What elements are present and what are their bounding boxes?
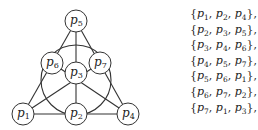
set-line-3: {p3, p4, p6}, xyxy=(190,37,257,53)
set-line-6: {p6, p7, p2}, xyxy=(190,84,257,100)
line-p6-p3-p4 xyxy=(52,63,128,114)
set-line-5: {p5, p6, p1}, xyxy=(190,68,257,84)
node-p6: p6 xyxy=(41,52,63,74)
node-p2: p2 xyxy=(65,103,87,125)
node-p5: p5 xyxy=(65,10,87,32)
set-line-1: {p1, p2, p4}, xyxy=(190,6,257,22)
line-p7-p3-p1 xyxy=(23,63,100,114)
fano-plane-diagram: p1p2p3p4p5p6p7 xyxy=(0,0,150,130)
set-line-4: {p4, p5, p7}, xyxy=(190,53,257,69)
line-set-list: {p1, p2, p4},{p2, p3, p5},{p3, p4, p6},{… xyxy=(190,6,257,115)
diagram-nodes: p1p2p3p4p5p6p7 xyxy=(12,10,139,125)
node-p4: p4 xyxy=(117,103,139,125)
set-line-2: {p2, p3, p5}, xyxy=(190,22,257,38)
node-p1: p1 xyxy=(12,103,34,125)
node-p7: p7 xyxy=(89,52,111,74)
set-line-7: {p7, p1, p3}, xyxy=(190,100,257,116)
node-p3: p3 xyxy=(65,62,87,84)
